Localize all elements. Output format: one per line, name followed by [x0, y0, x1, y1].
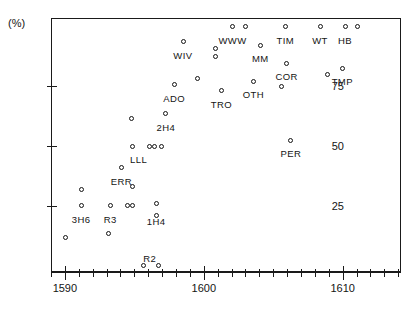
data-point: [279, 84, 284, 89]
data-point-label: OTH: [243, 89, 264, 100]
data-point-label: 2H4: [157, 122, 176, 133]
data-point: [230, 24, 235, 29]
data-point: [141, 263, 146, 268]
data-point: [355, 24, 360, 29]
data-point: [172, 82, 177, 87]
x-axis-minor-tick: [190, 269, 191, 277]
cropped-header-text: [10, 0, 170, 5]
data-point: [152, 144, 157, 149]
data-point: [163, 111, 168, 116]
x-axis-major-tick: [343, 266, 344, 280]
x-axis-minor-tick: [357, 269, 358, 277]
data-point: [154, 201, 159, 206]
data-point: [119, 165, 124, 170]
data-point-label: R2: [143, 253, 156, 264]
data-point: [129, 116, 134, 121]
data-point: [343, 24, 348, 29]
x-axis-minor-tick: [259, 269, 260, 277]
data-point: [181, 39, 186, 44]
y-axis-tick-label: 50: [332, 140, 344, 152]
x-axis-minor-tick: [301, 269, 302, 277]
x-axis-minor-tick: [398, 269, 399, 277]
data-point: [63, 235, 68, 240]
data-point: [79, 203, 84, 208]
data-point-label: ERR: [111, 176, 132, 187]
data-point: [325, 72, 330, 77]
scatter-plot-figure: (%) 3H6R3ERRLLL1H4R22H4ADOWIVTROWWWMMOTH…: [0, 0, 419, 314]
data-point: [288, 138, 293, 143]
data-point: [258, 43, 263, 48]
y-axis-tick-label: 25: [332, 200, 344, 212]
y-axis-tick-label: 75: [332, 80, 344, 92]
data-point: [318, 24, 323, 29]
data-point: [130, 203, 135, 208]
x-axis-tick-label: 1590: [53, 282, 77, 294]
data-point-label: TIM: [277, 35, 295, 46]
data-point-label: WIV: [173, 50, 192, 61]
data-point: [130, 144, 135, 149]
data-point-label: 3H6: [72, 214, 91, 225]
x-axis-tick-label: 1610: [330, 282, 354, 294]
data-point: [251, 79, 256, 84]
x-axis-minor-tick: [329, 269, 330, 277]
data-point: [106, 231, 111, 236]
x-axis-minor-tick: [287, 269, 288, 277]
data-point: [195, 76, 200, 81]
x-axis-minor-tick: [107, 269, 108, 277]
data-point: [108, 203, 113, 208]
y-axis-tick: [47, 86, 57, 87]
data-point-label: LLL: [130, 154, 147, 165]
x-axis-major-tick: [65, 266, 66, 280]
data-point: [156, 263, 161, 268]
data-point: [125, 203, 130, 208]
data-point: [213, 46, 218, 51]
y-axis-tick: [47, 146, 57, 147]
data-point: [243, 24, 248, 29]
y-axis-tick: [47, 206, 57, 207]
data-point: [79, 187, 84, 192]
x-axis-major-tick: [204, 266, 205, 280]
data-point: [284, 61, 289, 66]
x-axis: 159016001610: [51, 272, 401, 273]
x-axis-minor-tick: [134, 269, 135, 277]
x-axis-minor-tick: [384, 269, 385, 277]
x-axis-minor-tick: [273, 269, 274, 277]
x-axis-minor-tick: [218, 269, 219, 277]
x-axis-minor-tick: [315, 269, 316, 277]
x-axis-minor-tick: [79, 269, 80, 277]
data-point: [219, 88, 224, 93]
plot-area-frame: 3H6R3ERRLLL1H4R22H4ADOWIVTROWWWMMOTHTIMC…: [51, 18, 401, 272]
data-point-label: MM: [252, 53, 269, 64]
data-point-label: TRO: [211, 99, 232, 110]
x-axis-minor-tick: [370, 269, 371, 277]
data-point: [340, 66, 345, 71]
x-axis-minor-tick: [51, 269, 52, 277]
data-point-label: ADO: [163, 93, 185, 104]
data-point-label: WWW: [218, 35, 246, 46]
data-point-label: COR: [276, 71, 298, 82]
x-axis-minor-tick: [245, 269, 246, 277]
data-point-label: HB: [338, 35, 352, 46]
data-point: [159, 144, 164, 149]
data-point: [213, 54, 218, 59]
x-axis-tick-label: 1600: [192, 282, 216, 294]
data-point: [147, 144, 152, 149]
x-axis-minor-tick: [120, 269, 121, 277]
data-point-label: WT: [312, 35, 328, 46]
x-axis-minor-tick: [93, 269, 94, 277]
x-axis-minor-tick: [232, 269, 233, 277]
data-point-label: 1H4: [147, 216, 166, 227]
y-axis-unit-label: (%): [8, 17, 25, 29]
data-point-label: PER: [281, 148, 302, 159]
x-axis-minor-tick: [162, 269, 163, 277]
x-axis-minor-tick: [176, 269, 177, 277]
data-point-label: R3: [104, 214, 117, 225]
data-point: [283, 24, 288, 29]
x-axis-minor-tick: [148, 269, 149, 277]
